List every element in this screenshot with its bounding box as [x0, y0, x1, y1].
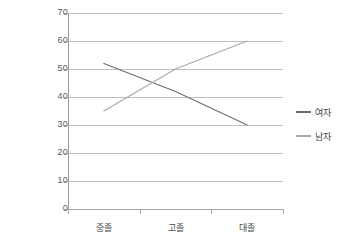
legend-item-women[interactable]: 여자: [296, 100, 345, 124]
gridline-0: [68, 209, 283, 210]
gridline-50: [68, 69, 283, 70]
legend-label-men: 남자: [315, 130, 331, 143]
y-tick-label-60: 60: [28, 35, 68, 45]
legend-swatch-women: [296, 111, 311, 112]
x-tick-label-2: 대졸: [212, 221, 282, 234]
legend-swatch-men: [296, 135, 311, 136]
x-tick-label-1: 고졸: [141, 221, 211, 234]
x-tick-mark-2: [211, 209, 212, 214]
gridline-70: [68, 13, 283, 14]
legend-label-women: 여자: [315, 106, 331, 119]
gridline-10: [68, 181, 283, 182]
legend-item-men[interactable]: 남자: [296, 124, 345, 148]
y-tick-label-20: 20: [28, 147, 68, 157]
y-tick-label-40: 40: [28, 91, 68, 101]
gridline-60: [68, 41, 283, 42]
line-chart: 706050403020100 중졸고졸대졸 여자 남자: [0, 0, 345, 247]
y-tick-label-50: 50: [28, 63, 68, 73]
y-tick-label-30: 30: [28, 119, 68, 129]
x-tick-mark-1: [140, 209, 141, 214]
x-tick-mark-0: [68, 209, 69, 214]
y-tick-label-70: 70: [28, 7, 68, 17]
gridline-30: [68, 125, 283, 126]
y-tick-label-10: 10: [28, 175, 68, 185]
y-tick-label-0: 0: [28, 203, 68, 213]
x-tick-label-0: 중졸: [69, 221, 139, 234]
plot-area: [68, 13, 283, 209]
x-tick-mark-3: [283, 209, 284, 214]
gridline-40: [68, 97, 283, 98]
chart-legend: 여자 남자: [296, 100, 345, 148]
gridline-20: [68, 153, 283, 154]
